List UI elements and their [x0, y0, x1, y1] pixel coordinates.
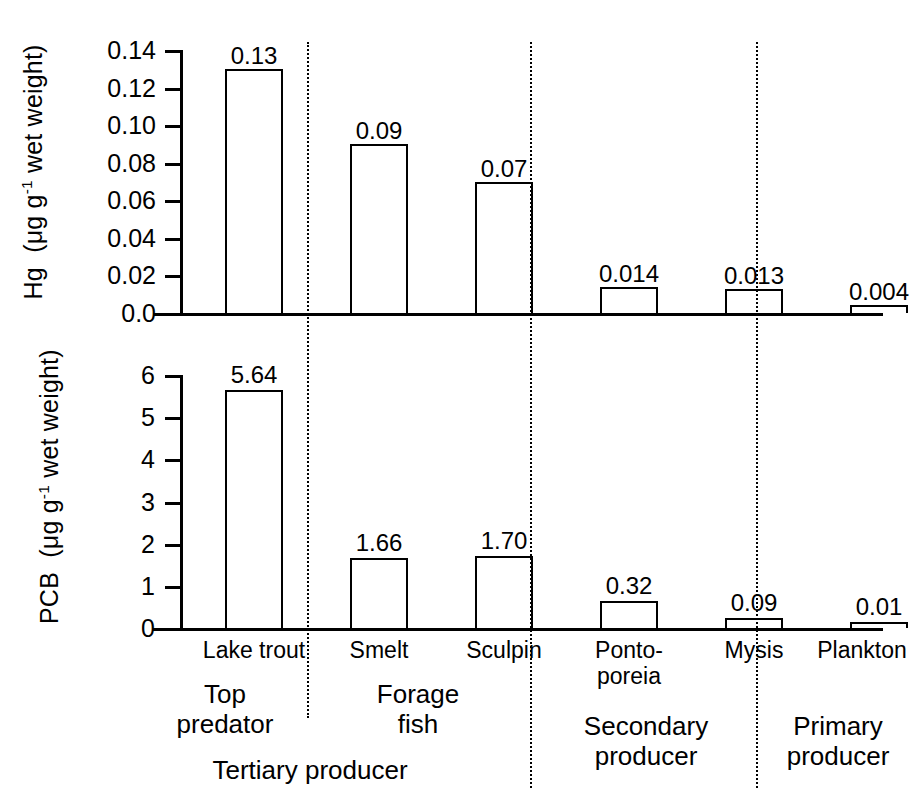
- pcb-tick: [165, 586, 180, 589]
- tier-label-tertiary-producer: Tertiary producer: [212, 755, 407, 786]
- category-label-pontoporeia: Ponto- poreia: [554, 638, 704, 690]
- pcb-tick: [165, 502, 180, 505]
- group-divider-1: [307, 42, 309, 718]
- pcb-tick: [165, 375, 180, 378]
- bar-value-label: 0.32: [606, 572, 653, 600]
- bar-pcb-smelt: [350, 558, 408, 628]
- bar-value-label: 0.13: [231, 42, 278, 70]
- pcb-tick-label: 4: [83, 445, 155, 474]
- pcb-tick: [165, 628, 180, 631]
- hg-tick-label: 0.0: [28, 299, 156, 328]
- hg-tick: [165, 313, 180, 316]
- bar-pcb-mysis: [725, 618, 783, 628]
- bar-value-label: 0.014: [599, 260, 659, 288]
- category-label-smelt: Smelt: [309, 638, 449, 664]
- pcb-tick: [165, 417, 180, 420]
- bar-value-label: 0.004: [849, 278, 909, 306]
- bar-value-label: 0.09: [731, 589, 778, 617]
- chart-figure: Hg (μg g-1 wet weight) 0.0 0.02 0.04 0.0…: [0, 0, 917, 812]
- hg-tick-label: 0.02: [28, 261, 156, 290]
- hg-tick: [165, 50, 180, 53]
- pcb-tick: [165, 544, 180, 547]
- group-label-forage-fish: Forage fish: [303, 680, 533, 740]
- pcb-x-axis-baseline: [153, 628, 883, 631]
- hg-tick: [165, 125, 180, 128]
- group-label-primary-producer: Primary producer: [738, 712, 917, 772]
- hg-x-axis-baseline: [153, 313, 883, 316]
- pcb-tick-label: 2: [83, 530, 155, 559]
- bar-pcb-pontoporeia: [600, 601, 658, 628]
- bar-pcb-lake-trout: [225, 390, 283, 628]
- pcb-tick-label: 6: [83, 361, 155, 390]
- hg-tick-label: 0.08: [28, 149, 156, 178]
- bar-value-label: 0.07: [481, 155, 528, 183]
- bar-hg-lake-trout: [225, 69, 283, 313]
- hg-tick-label: 0.10: [28, 111, 156, 140]
- bar-value-label: 1.70: [481, 527, 528, 555]
- bar-hg-mysis: [725, 289, 783, 313]
- hg-plot-area: 0.0 0.02 0.04 0.06 0.08 0.10 0.12 0.14 0…: [183, 50, 883, 313]
- pcb-tick-label: 5: [83, 403, 155, 432]
- bar-hg-pontoporeia: [600, 287, 658, 313]
- pcb-tick-label: 3: [83, 488, 155, 517]
- hg-tick: [165, 275, 180, 278]
- bar-pcb-sculpin: [475, 556, 533, 628]
- group-divider-3: [756, 42, 758, 788]
- bar-value-label: 0.013: [724, 262, 784, 290]
- pcb-plot-area: 0 1 2 3 4 5 6 5.64 1.66 1.70 0.32 0.09 0…: [183, 375, 883, 628]
- bar-pcb-plankton: [850, 622, 908, 628]
- group-label-secondary-producer: Secondary producer: [526, 712, 766, 772]
- hg-tick: [165, 88, 180, 91]
- hg-tick-label: 0.06: [28, 186, 156, 215]
- hg-tick-label: 0.12: [28, 74, 156, 103]
- pcb-tick-label: 1: [83, 572, 155, 601]
- bar-hg-plankton: [850, 305, 908, 313]
- pcb-tick: [165, 459, 180, 462]
- bar-value-label: 0.09: [356, 117, 403, 145]
- hg-tick-label: 0.04: [28, 224, 156, 253]
- hg-tick: [165, 163, 180, 166]
- hg-tick: [165, 200, 180, 203]
- bar-hg-smelt: [350, 144, 408, 313]
- pcb-axis-title: PCB (μg g-1 wet weight): [35, 369, 64, 624]
- pcb-tick-label: 0: [83, 614, 155, 643]
- group-divider-2: [530, 42, 532, 788]
- bar-value-label: 5.64: [231, 361, 278, 389]
- hg-tick: [165, 238, 180, 241]
- bar-value-label: 0.01: [856, 593, 903, 621]
- category-label-plankton: Plankton: [782, 638, 917, 664]
- hg-tick-label: 0.14: [28, 36, 156, 65]
- bar-hg-sculpin: [475, 182, 533, 313]
- bar-value-label: 1.66: [356, 529, 403, 557]
- hg-y-axis-spine: [180, 50, 183, 316]
- pcb-y-axis-spine: [180, 375, 183, 631]
